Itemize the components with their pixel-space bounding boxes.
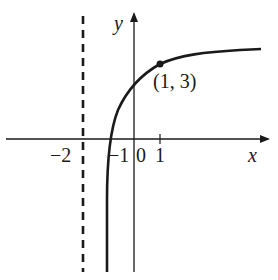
graph-canvas: (1, 3) y x −2 −1 0 1	[0, 0, 278, 280]
x-tick-label-1: 1	[155, 144, 165, 166]
graph-figure: (1, 3) y x −2 −1 0 1	[0, 0, 278, 280]
x-tick-label-neg2: −2	[50, 144, 71, 166]
x-tick-label-neg1: −1	[108, 144, 129, 166]
y-axis-label: y	[112, 12, 123, 35]
point-label: (1, 3)	[153, 70, 196, 93]
x-tick-label-0: 0	[136, 144, 146, 166]
point-marker	[157, 61, 164, 68]
x-axis-label: x	[247, 144, 257, 166]
